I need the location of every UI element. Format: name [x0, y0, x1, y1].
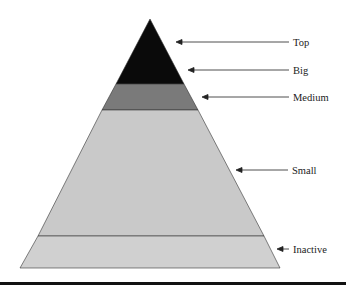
pyramid-tier-inactive	[20, 236, 280, 268]
label-inactive: Inactive	[293, 244, 327, 255]
label-medium: Medium	[293, 92, 329, 103]
arrowhead-big	[188, 68, 194, 73]
arrowhead-small	[236, 168, 242, 173]
label-big: Big	[293, 65, 309, 76]
arrowhead-inactive	[277, 247, 283, 252]
pyramid-tier-medium	[102, 84, 198, 110]
pyramid-tier-top-big	[116, 19, 184, 84]
label-small: Small	[292, 165, 317, 176]
arrowhead-top	[176, 40, 182, 45]
arrowhead-medium	[202, 95, 208, 100]
pyramid-tier-small	[38, 110, 264, 236]
pyramid-diagram: Top Big Medium Small Inactive	[0, 0, 346, 287]
label-top: Top	[293, 37, 309, 48]
bottom-divider	[0, 282, 346, 285]
